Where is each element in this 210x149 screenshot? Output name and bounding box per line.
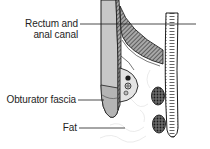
label-rectum-line2: anal canal — [25, 29, 78, 40]
gluteal-vessel-upper — [152, 87, 165, 105]
levator-ani-muscle — [120, 6, 163, 64]
gluteal-vessel-lower — [153, 115, 166, 133]
label-fat: Fat — [63, 122, 77, 133]
pelvic-wall-structure — [165, 13, 178, 137]
label-obturator-fascia: Obturator fascia — [6, 94, 76, 105]
label-rectum-line1: Rectum and — [25, 18, 78, 29]
pudendal-canal — [120, 68, 138, 102]
label-rectum-anal-canal: Rectum and anal canal — [25, 18, 78, 40]
